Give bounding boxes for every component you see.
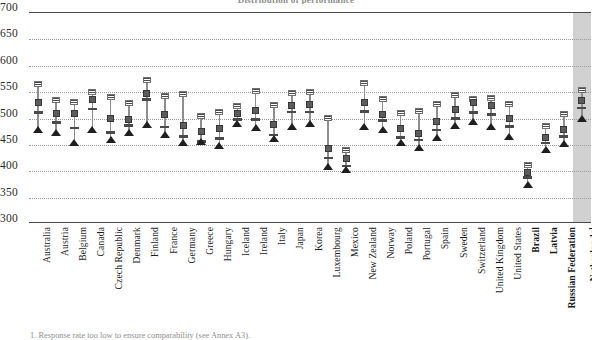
marker-lower-dash [287, 111, 296, 114]
marker-mean-square [107, 115, 114, 122]
country-data-column [337, 13, 355, 222]
marker-lowest-triangle [305, 120, 315, 127]
marker-lowest-triangle [450, 122, 460, 129]
marker-upper-striped [34, 81, 42, 87]
marker-upper-striped [397, 110, 405, 116]
range-stem [327, 119, 329, 170]
marker-lowest-triangle [396, 139, 406, 146]
marker-lowest-triangle [251, 124, 261, 131]
y-axis-tick-label: 600 [0, 54, 27, 66]
marker-upper-striped [451, 92, 459, 98]
marker-mean-square [506, 115, 513, 122]
x-axis-label-slot: Hungary [210, 225, 228, 330]
marker-upper-striped [415, 108, 423, 114]
y-axis-tick-label: 650 [0, 27, 27, 39]
plot-area [29, 12, 591, 223]
country-data-column [102, 13, 120, 222]
marker-lowest-triangle [341, 166, 351, 173]
country-data-column [319, 13, 337, 222]
marker-lowest-triangle [33, 126, 43, 133]
marker-lowest-triangle [486, 123, 496, 130]
x-axis-label-slot: Czech Republic [102, 225, 120, 330]
marker-lower-dash [88, 108, 97, 111]
x-axis-label-slot: Iceland [228, 225, 246, 330]
country-data-column [29, 13, 47, 222]
marker-mean-square [234, 110, 241, 117]
marker-lowest-triangle [106, 136, 116, 143]
country-data-column [265, 13, 283, 222]
marker-lowest-triangle [69, 139, 79, 146]
y-axis-tick-label: 450 [0, 133, 27, 145]
marker-lowest-triangle [160, 131, 170, 138]
marker-lower-dash [324, 157, 333, 160]
marker-mean-square [488, 102, 495, 109]
x-axis-label-slot: Latvia [537, 225, 555, 330]
marker-lowest-triangle [178, 139, 188, 146]
marker-mean-square [306, 101, 313, 108]
x-axis-label-slot: Spain [428, 225, 446, 330]
country-data-column [537, 13, 555, 222]
marker-upper-striped [433, 101, 441, 107]
x-axis-category-label: Netherlands1 [586, 227, 592, 282]
marker-upper-striped [578, 87, 586, 93]
marker-mean-square [343, 155, 350, 162]
marker-lowest-triangle [124, 129, 134, 136]
marker-lower-dash [432, 129, 441, 132]
marker-upper-striped [306, 89, 314, 95]
marker-mean-square [560, 126, 567, 133]
marker-upper-striped [52, 97, 60, 103]
marker-upper-striped [360, 80, 368, 86]
x-axis-label-slot: Austria [47, 225, 65, 330]
country-data-column [283, 13, 301, 222]
marker-mean-square [415, 130, 422, 137]
country-data-column [228, 13, 246, 222]
marker-lower-dash [52, 121, 61, 124]
marker-lowest-triangle [559, 140, 569, 147]
chart-figure: Distribution of performance 300350400450… [0, 0, 592, 340]
chart-title: Distribution of performance [0, 0, 592, 4]
country-data-column [156, 13, 174, 222]
marker-mean-square [35, 99, 42, 106]
marker-upper-striped [324, 115, 332, 121]
marker-lowest-triangle [87, 126, 97, 133]
country-data-column [247, 13, 265, 222]
country-data-column [65, 13, 83, 222]
country-data-column [392, 13, 410, 222]
country-data-column [355, 13, 373, 222]
marker-upper-striped [107, 94, 115, 100]
marker-upper-striped [233, 103, 241, 109]
x-axis-label-slot: Brazil [518, 225, 536, 330]
marker-mean-square [252, 107, 259, 114]
x-axis-label-slot: Germany [174, 225, 192, 330]
marker-lower-dash [160, 126, 169, 129]
marker-lowest-triangle [523, 181, 533, 188]
marker-lowest-triangle [432, 134, 442, 141]
x-axis-label-slot: Japan [283, 225, 301, 330]
marker-upper-striped [88, 89, 96, 95]
x-axis-label-slot: Greece [192, 225, 210, 330]
marker-mean-square [161, 111, 168, 118]
marker-lowest-triangle [232, 120, 242, 127]
country-data-column [174, 13, 192, 222]
country-data-column [138, 13, 156, 222]
marker-upper-striped [524, 162, 532, 168]
marker-upper-striped [252, 88, 260, 94]
x-axis-label-slot: United Kingdom [482, 225, 500, 330]
marker-upper-striped [125, 100, 133, 106]
country-data-column [573, 13, 591, 222]
marker-lower-dash [179, 135, 188, 138]
x-axis-label-slot: Mexico [337, 225, 355, 330]
x-axis-label-slot: Poland [392, 225, 410, 330]
marker-mean-square [143, 90, 150, 97]
country-data-column [518, 13, 536, 222]
x-axis-label-slot: New Zealand [355, 225, 373, 330]
marker-upper-striped [560, 111, 568, 117]
country-data-column [373, 13, 391, 222]
marker-lowest-triangle [214, 142, 224, 149]
marker-mean-square [524, 169, 531, 176]
y-axis-tick-label: 400 [0, 159, 27, 171]
marker-lower-dash [251, 118, 260, 121]
marker-lowest-triangle [414, 144, 424, 151]
marker-lower-dash [451, 117, 460, 120]
marker-upper-striped [542, 123, 550, 129]
